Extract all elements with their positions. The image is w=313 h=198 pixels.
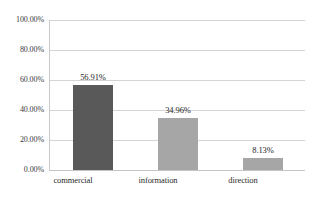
- y-tick-label-100: 100.00%: [0, 16, 44, 24]
- bar-chart: 100.00% 80.00% 60.00% 40.00% 20.00% 0.00…: [0, 0, 313, 198]
- bar-value-direction: 8.13%: [252, 146, 273, 155]
- bar-commercial[interactable]: [73, 85, 113, 170]
- category-label-information: information: [128, 176, 188, 185]
- bar-slot-information: 34.96%: [158, 20, 198, 170]
- bar-slot-direction: 8.13%: [243, 20, 283, 170]
- gridline-0: [50, 170, 305, 171]
- y-tick-label-40: 40.00%: [0, 106, 44, 114]
- y-tick-label-60: 60.00%: [0, 76, 44, 84]
- bar-value-commercial: 56.91%: [80, 73, 106, 82]
- category-label-direction: direction: [213, 176, 273, 185]
- category-label-commercial: commercial: [43, 176, 103, 185]
- bar-slot-commercial: 56.91%: [73, 20, 113, 170]
- bar-value-information: 34.96%: [165, 106, 191, 115]
- plot-area: 56.91% 34.96% 8.13%: [50, 20, 305, 170]
- y-tick-label-80: 80.00%: [0, 46, 44, 54]
- y-tick-label-0: 0.00%: [0, 166, 44, 174]
- bar-direction[interactable]: [243, 158, 283, 170]
- bar-information[interactable]: [158, 118, 198, 170]
- y-tick-label-20: 20.00%: [0, 136, 44, 144]
